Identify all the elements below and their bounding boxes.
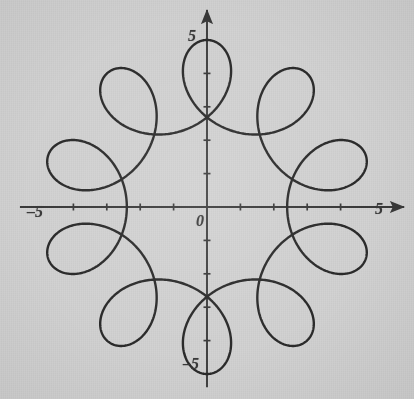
axes-group: [20, 10, 404, 387]
plot-canvas: [0, 0, 414, 399]
y-max-label: 5: [188, 27, 196, 45]
origin-label: 0: [196, 212, 204, 230]
y-min-label: –5: [183, 355, 199, 373]
plot-figure: 0 5 –5 5 –5: [0, 0, 414, 399]
x-min-label: –5: [27, 203, 43, 221]
x-max-label: 5: [375, 200, 383, 218]
